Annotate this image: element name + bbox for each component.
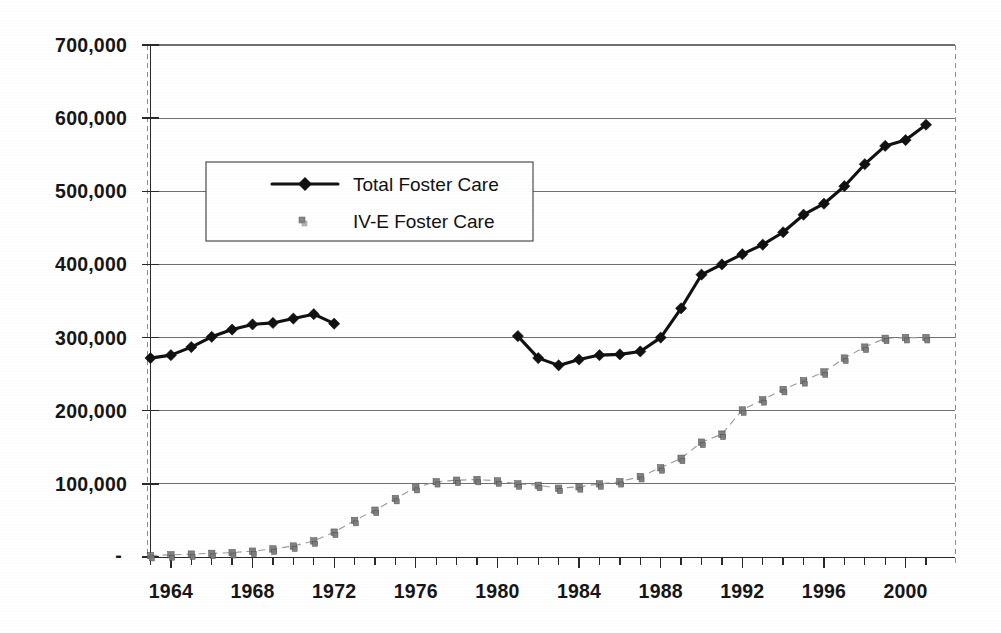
- plot-frame: [148, 45, 956, 566]
- x-tick-label-1992: 1992: [720, 580, 764, 602]
- ive-data-point-ghost-1994: [782, 390, 787, 395]
- x-axis-ticks-group: [151, 557, 927, 568]
- x-tick-label-2000: 2000: [883, 580, 927, 602]
- ive-data-point-ghost-1997: [843, 358, 848, 363]
- y-tick-label-0: -: [115, 544, 122, 566]
- y-tick-label-300000: 300,000: [55, 327, 127, 349]
- ive-data-point-ghost-1967: [231, 553, 236, 558]
- ive-data-point-ghost-1980: [496, 481, 501, 486]
- ive-connector-line: [151, 338, 927, 556]
- ive-data-point-ghost-1983: [557, 489, 562, 494]
- ive-data-point-ghost-2001: [925, 338, 930, 343]
- ive-data-point-ghost-1995: [802, 381, 807, 386]
- y-tick-label-200000: 200,000: [55, 400, 127, 422]
- ive-data-point-ghost-1965: [190, 554, 195, 559]
- x-tick-label-1976: 1976: [394, 580, 438, 602]
- ive-data-point-ghost-1973: [353, 521, 358, 526]
- total-data-point-1985: [594, 350, 605, 361]
- ive-data-point-ghost-1996: [823, 372, 828, 377]
- chart-legend: Total Foster Care IV-E Foster Care: [206, 162, 533, 241]
- total-data-point-1969: [267, 317, 278, 328]
- legend-item-label-total: Total Foster Care: [353, 174, 499, 195]
- ive-data-point-ghost-1968: [251, 552, 256, 557]
- total-data-point-1971: [308, 309, 319, 320]
- total-data-point-1972: [329, 318, 340, 329]
- x-tick-label-1996: 1996: [802, 580, 846, 602]
- ive-data-point-ghost-1982: [537, 486, 542, 491]
- x-axis-tick-labels: 1964196819721976198019841988199219962000: [149, 580, 928, 602]
- total-data-point-1991: [716, 259, 727, 270]
- ive-data-point-ghost-1964: [170, 555, 175, 560]
- ive-data-point-ghost-1976: [415, 488, 420, 493]
- ive-data-point-ghost-1978: [455, 481, 460, 486]
- x-tick-label-1980: 1980: [475, 580, 519, 602]
- total-data-point-1970: [288, 313, 299, 324]
- x-tick-label-1972: 1972: [312, 580, 356, 602]
- x-tick-label-1988: 1988: [639, 580, 683, 602]
- total-data-point-1986: [614, 349, 625, 360]
- total-data-point-1992: [737, 249, 748, 260]
- total-data-point-1984: [573, 354, 584, 365]
- total-data-point-1967: [227, 324, 238, 335]
- ive-data-point-ghost-1977: [435, 482, 440, 487]
- ive-data-point-ghost-1971: [313, 541, 318, 546]
- ive-data-point-ghost-2000: [904, 338, 909, 343]
- ive-data-point-ghost-1974: [374, 511, 379, 516]
- ive-data-point-ghost-1999: [884, 339, 889, 344]
- total-data-point-1968: [247, 319, 258, 330]
- gridlines-group: [151, 45, 956, 484]
- total-data-point-1964: [165, 350, 176, 361]
- ive-data-point-ghost-1985: [598, 484, 603, 489]
- y-tick-label-600000: 600,000: [55, 107, 127, 129]
- total-line-segment-1: [151, 314, 335, 358]
- series-total-foster-care: [145, 119, 932, 371]
- legend-item-label-ive: IV-E Foster Care: [353, 211, 495, 232]
- series-ive-foster-care: [147, 334, 930, 561]
- ive-data-point-ghost-1981: [517, 484, 522, 489]
- y-tick-label-700000: 700,000: [55, 34, 127, 56]
- ive-data-point-ghost-1969: [272, 549, 277, 554]
- y-axis-tick-labels: -100,000200,000300,000400,000500,000600,…: [55, 34, 127, 566]
- foster-care-line-chart: -100,000200,000300,000400,000500,000600,…: [0, 0, 1001, 633]
- ive-data-point-ghost-1989: [680, 459, 685, 464]
- x-tick-label-1968: 1968: [230, 580, 274, 602]
- ive-data-point-ghost-1991: [721, 435, 726, 440]
- ive-data-point-ghost-1993: [762, 400, 767, 405]
- x-tick-label-1964: 1964: [149, 580, 193, 602]
- ive-data-point-ghost-1988: [659, 468, 664, 473]
- ive-data-point-ghost-1966: [211, 554, 216, 559]
- ive-data-point-ghost-1984: [578, 487, 583, 492]
- y-tick-label-100000: 100,000: [55, 473, 127, 495]
- total-data-point-1963: [145, 352, 156, 363]
- ive-data-point-ghost-1992: [741, 410, 746, 415]
- total-data-point-1983: [553, 360, 564, 371]
- ive-data-point-ghost-1986: [619, 482, 624, 487]
- y-tick-label-400000: 400,000: [55, 253, 127, 275]
- ive-data-point-ghost-1972: [333, 533, 338, 538]
- total-data-point-1965: [186, 341, 197, 352]
- x-tick-label-1984: 1984: [557, 580, 601, 602]
- legend-ive-square-icon-ghost: [302, 221, 307, 226]
- ive-data-point-ghost-1963: [149, 556, 154, 561]
- ive-data-point-ghost-1970: [292, 546, 297, 551]
- ive-data-point-ghost-1987: [639, 477, 644, 482]
- y-tick-label-500000: 500,000: [55, 180, 127, 202]
- ive-data-point-ghost-1979: [476, 480, 481, 485]
- chart-canvas: -100,000200,000300,000400,000500,000600,…: [0, 0, 1001, 633]
- ive-data-point-ghost-1998: [864, 347, 869, 352]
- ive-data-point-ghost-1975: [394, 499, 399, 504]
- ive-data-point-ghost-1990: [700, 443, 705, 448]
- total-data-point-1966: [206, 331, 217, 342]
